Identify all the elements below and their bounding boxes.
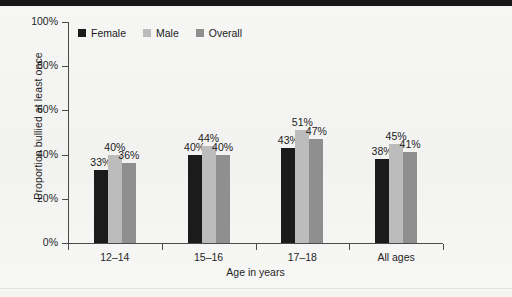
legend-swatch-male (143, 29, 151, 37)
x-axis-tick (68, 244, 69, 250)
x-axis-category-label: 12–14 (68, 251, 162, 263)
x-axis-tick (443, 244, 444, 250)
legend-swatch-female (78, 29, 86, 37)
bar-overall-3[interactable] (309, 139, 323, 243)
y-axis-tick-label: 20% (2, 192, 58, 204)
bar-overall-1[interactable] (122, 163, 136, 243)
y-axis-tick (62, 22, 68, 23)
x-axis-tick (256, 244, 257, 250)
y-axis-tick (62, 199, 68, 200)
bar-female-3[interactable] (281, 148, 295, 243)
y-axis-tick (62, 155, 68, 156)
bar-overall-4[interactable] (403, 152, 417, 243)
x-axis-title: Age in years (68, 266, 443, 278)
y-axis-tick (62, 110, 68, 111)
x-axis-category-label: 17–18 (256, 251, 350, 263)
y-axis-tick-label: 60% (2, 103, 58, 115)
x-axis-category-label: 15–16 (162, 251, 256, 263)
x-axis-tick (349, 244, 350, 250)
y-axis-title: Proportion bullied at least once (32, 11, 44, 241)
bar-value-label: 47% (302, 125, 330, 137)
y-axis-tick-label: 80% (2, 59, 58, 71)
bar-value-label: 41% (396, 138, 424, 150)
y-axis-tick-label: 100% (2, 15, 58, 27)
chart-page: Proportion bullied at least once 0%20%40… (0, 0, 512, 297)
bar-female-1[interactable] (94, 170, 108, 243)
legend-item-label: Male (156, 27, 179, 39)
chart-legend: FemaleMaleOverall (78, 27, 242, 39)
y-axis-tick-label: 0% (2, 236, 58, 248)
legend-item-overall[interactable]: Overall (196, 27, 242, 39)
legend-item-label: Overall (209, 27, 242, 39)
y-axis-line (68, 22, 69, 244)
y-axis-tick (62, 66, 68, 67)
bar-female-2[interactable] (188, 155, 202, 243)
legend-item-female[interactable]: Female (78, 27, 126, 39)
x-axis-category-label: All ages (349, 251, 443, 263)
x-axis-tick (162, 244, 163, 250)
y-axis-tick-label: 40% (2, 148, 58, 160)
bar-male-1[interactable] (108, 155, 122, 243)
bar-male-2[interactable] (202, 146, 216, 243)
bar-value-label: 36% (115, 149, 143, 161)
bar-female-4[interactable] (375, 159, 389, 243)
legend-swatch-overall (196, 29, 204, 37)
legend-item-label: Female (91, 27, 126, 39)
bar-chart-figure: Proportion bullied at least once 0%20%40… (0, 0, 512, 297)
bar-male-4[interactable] (389, 144, 403, 243)
bar-overall-2[interactable] (216, 155, 230, 243)
bar-male-3[interactable] (295, 130, 309, 243)
legend-item-male[interactable]: Male (143, 27, 179, 39)
bar-value-label: 40% (209, 141, 237, 153)
